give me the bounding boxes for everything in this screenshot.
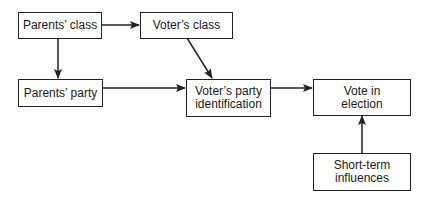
- node-label-line-2: identification: [195, 98, 262, 111]
- node-parents-party: Parents’ party: [18, 79, 103, 107]
- node-label-line-2: election: [341, 98, 382, 111]
- node-label-line-1: Vote in: [344, 85, 381, 98]
- node-label-line-2: influences: [335, 172, 389, 185]
- node-short-term-influences: Short-term influences: [313, 153, 411, 191]
- node-vote-in-election: Vote in election: [313, 79, 411, 116]
- node-voters-class: Voter’s class: [140, 12, 233, 39]
- node-label: Parents’ party: [24, 87, 98, 100]
- node-parents-class: Parents’ class: [18, 12, 102, 39]
- node-label: Parents’ class: [23, 19, 97, 32]
- node-label: Voter’s class: [153, 19, 221, 32]
- node-voters-party-identification: Voter’s party identification: [186, 79, 271, 117]
- edge-voters-class-to-voters-party-id: [187, 38, 212, 78]
